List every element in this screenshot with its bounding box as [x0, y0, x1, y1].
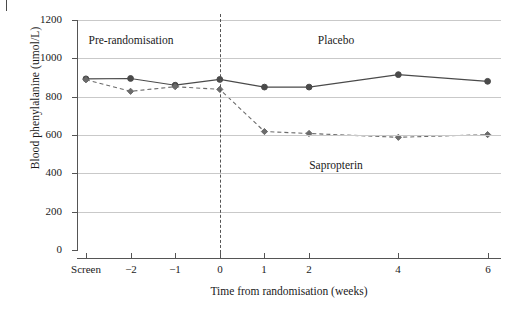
x-axis-tick-label: 0	[217, 263, 223, 275]
data-point-marker	[262, 84, 268, 90]
y-axis-tick-label: 1000	[22, 52, 62, 63]
x-axis-tick-label: 6	[485, 263, 491, 275]
y-axis-tick-label: 200	[22, 206, 62, 217]
y-axis-tick	[72, 58, 78, 59]
series-line-sapropterin	[86, 80, 488, 138]
x-axis-tick	[398, 253, 399, 259]
x-axis-label: Time from randomisation (weeks)	[77, 285, 501, 297]
y-axis-tick	[72, 97, 78, 98]
y-axis-tick-label: 400	[22, 167, 62, 178]
figure-container: Blood phenylalanine (umol/L) Time from r…	[0, 0, 507, 310]
x-axis-line	[77, 258, 501, 259]
x-axis-tick-label: Screen	[71, 263, 101, 275]
x-axis-tick-label: −2	[125, 263, 137, 275]
x-axis-tick-label: −1	[169, 263, 181, 275]
y-axis-tick	[72, 135, 78, 136]
gridline-y	[77, 97, 501, 98]
y-axis-tick-label: 0	[22, 244, 62, 255]
gridline-y	[77, 173, 501, 174]
x-axis-tick	[86, 253, 87, 259]
series-line-placebo	[86, 75, 488, 87]
data-point-marker	[306, 84, 312, 90]
gridline-y	[77, 58, 501, 59]
gridline-y	[77, 20, 501, 21]
x-axis-tick	[131, 253, 132, 259]
annotation-pre-randomisation: Pre-randomisation	[89, 34, 174, 46]
plot-area	[77, 20, 501, 250]
annotation-placebo: Placebo	[318, 34, 354, 46]
y-axis-tick-label: 800	[22, 91, 62, 102]
y-axis-tick	[72, 173, 78, 174]
x-axis-tick	[175, 253, 176, 259]
x-axis-tick-label: 2	[306, 263, 312, 275]
y-axis-tick	[72, 212, 78, 213]
data-point-marker	[395, 72, 401, 78]
x-axis-tick	[488, 253, 489, 259]
data-point-marker	[127, 88, 133, 94]
y-axis-tick	[72, 250, 78, 251]
data-point-marker	[485, 78, 491, 84]
randomisation-reference-line	[220, 14, 221, 258]
crop-mark	[6, 0, 7, 11]
y-axis-tick-label: 1200	[22, 14, 62, 25]
x-axis-tick-label: 1	[261, 263, 267, 275]
gridline-y	[77, 212, 501, 213]
y-axis-tick-label: 600	[22, 129, 62, 140]
data-point-marker	[261, 128, 267, 134]
annotation-sapropterin: Sapropterin	[309, 159, 363, 171]
x-axis-tick-label: 4	[395, 263, 401, 275]
x-axis-tick	[309, 253, 310, 259]
data-point-marker	[128, 76, 134, 82]
x-axis-tick	[264, 253, 265, 259]
y-axis-tick	[72, 20, 78, 21]
gridline-y	[77, 135, 501, 136]
